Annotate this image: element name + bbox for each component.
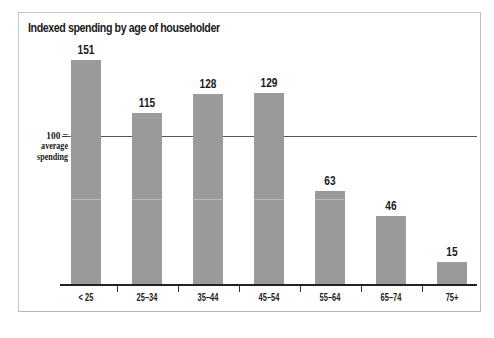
bar-0 <box>71 60 101 284</box>
x-axis-tick <box>239 286 240 292</box>
x-axis-tick <box>422 286 423 292</box>
x-axis-tick <box>178 286 179 292</box>
bar-highlight-line <box>71 199 101 200</box>
x-tick-label: < 25 <box>64 292 109 303</box>
bar-highlight-line <box>315 199 345 200</box>
chart-title: Indexed spending by age of householder <box>28 20 220 35</box>
bar-3 <box>254 93 284 284</box>
x-axis <box>60 284 477 286</box>
reference-text-average: average <box>29 141 68 152</box>
bar-value-label: 115 <box>128 95 167 110</box>
bar-value-label: 129 <box>250 75 289 90</box>
bar-value-label: 128 <box>189 76 228 91</box>
bar-value-label: 151 <box>67 42 106 57</box>
bar-highlight-line <box>132 199 162 200</box>
x-tick-label: 25–34 <box>125 292 170 303</box>
x-tick-label: 35–44 <box>186 292 231 303</box>
bar-2 <box>193 94 223 284</box>
x-tick-label: 45–54 <box>247 292 292 303</box>
reference-text-spending: spending <box>29 152 68 163</box>
bar-5 <box>376 216 406 284</box>
bar-1 <box>132 113 162 284</box>
x-tick-label: 55–64 <box>308 292 353 303</box>
reference-line-label: 100 = average spending <box>29 130 68 163</box>
reference-value-label: 100 = <box>29 130 68 141</box>
x-tick-label: 65–74 <box>369 292 414 303</box>
bar-value-label: 15 <box>433 244 472 259</box>
bar-value-label: 46 <box>372 198 411 213</box>
bar-4 <box>315 191 345 284</box>
bar-value-label: 63 <box>311 173 350 188</box>
x-axis-tick <box>300 286 301 292</box>
x-axis-tick <box>117 286 118 292</box>
x-tick-label: 75+ <box>430 292 475 303</box>
bar-highlight-line <box>193 199 223 200</box>
bar-highlight-line <box>254 199 284 200</box>
bar-6 <box>437 262 467 284</box>
x-axis-tick <box>361 286 362 292</box>
